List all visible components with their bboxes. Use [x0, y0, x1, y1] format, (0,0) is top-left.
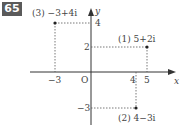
point-2-label: (2) 4−3i: [118, 113, 156, 123]
x-tick-4: 4: [130, 75, 136, 85]
x-axis-arrow-icon: [168, 69, 176, 75]
x-axis-label: x: [174, 76, 179, 86]
y-tick-neg3: −3: [77, 103, 91, 113]
point-3-label: (3) −3+4i: [32, 8, 77, 18]
y-tick-2: 2: [84, 42, 90, 52]
y-tick-4: 4: [95, 18, 101, 28]
point-3: [53, 21, 56, 24]
y-axis-label: y: [94, 6, 101, 16]
complex-plane-diagram: (3) −3+4i (1) 5+2i (2) 4−3i y x O 4 2 −3…: [0, 0, 182, 130]
origin-label: O: [81, 75, 88, 85]
point-1: [145, 45, 148, 48]
point-2: [134, 106, 137, 109]
point-1-label: (1) 5+2i: [118, 34, 156, 44]
y-axis-arrow-icon: [88, 8, 94, 16]
x-tick-5: 5: [144, 75, 150, 85]
x-tick-neg3: −3: [48, 75, 62, 85]
